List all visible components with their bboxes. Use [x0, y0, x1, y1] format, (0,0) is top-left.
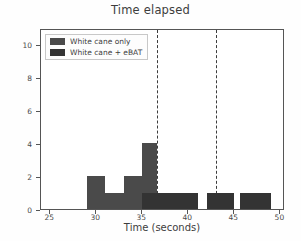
y-tick-label: 6: [16, 107, 32, 116]
bar: [157, 193, 175, 209]
y-tick-label: 0: [16, 206, 32, 215]
chart-figure: Time elapsed # Subjects Time (seconds) W…: [0, 0, 301, 241]
y-tick-label: 10: [16, 41, 32, 50]
x-tick-label: 40: [183, 213, 193, 222]
y-tick: [36, 177, 40, 178]
y-tick-label: 4: [16, 140, 32, 149]
bar: [207, 193, 235, 209]
y-tick: [36, 144, 40, 145]
reference-line: [157, 30, 158, 209]
plot-area: White cane onlyWhite cane + eBAT: [40, 29, 284, 210]
bar: [142, 193, 157, 209]
x-tick-label: 50: [275, 213, 285, 222]
bar: [87, 176, 105, 209]
x-tick-label: 30: [90, 213, 100, 222]
legend-item: White cane only: [50, 38, 142, 46]
legend-label: White cane only: [70, 38, 131, 46]
x-tick-label: 45: [229, 213, 239, 222]
y-tick: [36, 45, 40, 46]
y-tick: [36, 210, 40, 211]
reference-line: [216, 30, 217, 209]
y-tick: [36, 78, 40, 79]
x-tick-label: 35: [137, 213, 147, 222]
chart-legend: White cane onlyWhite cane + eBAT: [45, 34, 148, 60]
chart-title: Time elapsed: [0, 3, 301, 17]
y-tick-label: 2: [16, 173, 32, 182]
y-tick-label: 8: [16, 74, 32, 83]
bar: [124, 176, 142, 209]
legend-swatch: [50, 38, 65, 45]
x-tick-label: 25: [44, 213, 54, 222]
legend-item: White cane + eBAT: [50, 49, 142, 57]
x-axis-label: Time (seconds): [40, 222, 284, 233]
bar: [105, 193, 123, 209]
legend-swatch: [50, 49, 65, 56]
y-tick: [36, 111, 40, 112]
legend-label: White cane + eBAT: [70, 49, 142, 57]
bar: [175, 193, 197, 209]
bar: [240, 193, 271, 209]
